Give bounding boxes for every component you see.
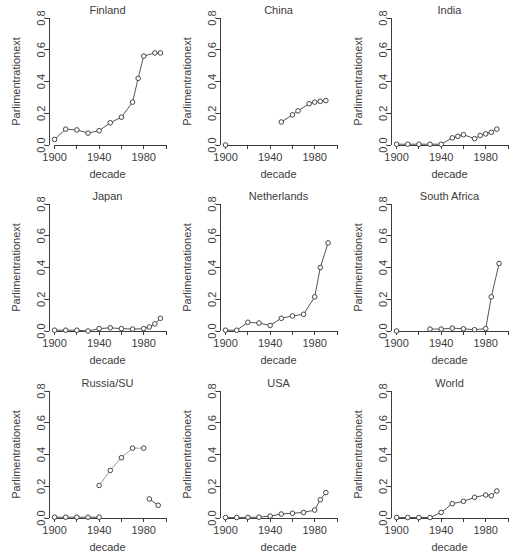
x-axis-tick-label: 1940 [429,524,453,536]
y-axis-tick-label: 0.2 [206,478,218,493]
data-point-marker [119,327,124,332]
y-axis-title: Parlimentrationext [181,224,193,313]
x-axis-tick-label: 1940 [258,151,282,163]
x-axis-title: decade [89,354,125,366]
x-axis-tick-label: 1980 [302,524,326,536]
y-axis-title: Parlimentrationext [352,224,364,313]
panel-title: World [435,377,464,389]
chart-panel-finland: Finland0.00.20.40.60.8Parlimentrationext… [0,0,171,186]
data-point-marker [461,132,466,137]
y-axis-title: Parlimentrationext [352,410,364,499]
y-axis-tick-label: 0.8 [35,197,47,212]
y-axis-tick-label: 0.4 [377,74,389,89]
data-point-marker [495,488,500,493]
y-axis-tick-label: 0.2 [206,292,218,307]
data-point-marker [136,76,141,81]
chart-panel-south-africa: South Africa0.00.20.40.60.8Parlimentrati… [342,186,513,372]
data-point-marker [279,120,284,125]
y-axis-tick-label: 0.8 [206,10,218,25]
data-point-marker [428,142,433,147]
panel-title: India [438,4,463,16]
data-point-marker [268,323,273,328]
y-axis-tick-label: 0.6 [35,42,47,57]
x-axis-tick-label: 1980 [131,151,155,163]
y-axis-tick-label: 0.6 [377,42,389,57]
data-point-marker [156,503,161,508]
y-axis-tick-label: 0.4 [35,74,47,89]
data-point-marker [257,321,262,326]
data-point-marker [147,496,152,501]
data-point-marker [268,513,273,518]
y-axis-tick-label: 0.2 [35,292,47,307]
data-point-marker [489,493,494,498]
data-point-marker [130,446,135,451]
data-point-marker [119,115,124,120]
chart-panel-usa: USA0.00.20.40.60.8Parlimentrationext1900… [171,373,342,559]
x-axis-tick-label: 1900 [42,524,66,536]
y-axis-tick-label: 0.8 [206,197,218,212]
data-point-marker [52,137,57,142]
data-point-marker [75,328,80,333]
y-axis-title: Parlimentrationext [352,37,364,126]
data-point-marker [456,134,461,139]
data-point-marker [130,327,135,332]
data-point-marker [223,143,228,148]
x-axis-tick-label: 1940 [87,151,111,163]
data-point-marker [86,515,91,520]
data-point-marker [141,446,146,451]
panel-title: USA [267,377,290,389]
data-point-marker [130,100,135,105]
x-axis-tick-label: 1980 [302,151,326,163]
data-point-marker [108,468,113,473]
data-point-marker [234,515,239,520]
chart-panel-world: World0.00.20.40.60.8Parlimentrationext19… [342,373,513,559]
x-axis-tick-label: 1940 [87,337,111,349]
data-point-marker [63,127,68,132]
x-axis-title: decade [431,168,467,180]
data-point-marker [63,515,68,520]
data-point-marker [119,455,124,460]
y-axis-tick-label: 0.4 [35,447,47,462]
y-axis-tick-label: 0.2 [377,106,389,121]
series-line [397,491,497,518]
data-point-marker [158,316,163,321]
x-axis-title: decade [431,541,467,553]
data-point-marker [394,515,399,520]
x-axis-title: decade [260,541,296,553]
series-line [99,448,144,485]
data-point-marker [439,510,444,515]
data-point-marker [326,241,331,246]
y-axis-title: Parlimentrationext [181,410,193,499]
data-point-marker [257,515,262,520]
data-point-marker [318,266,323,271]
data-point-marker [279,316,284,321]
y-axis-tick-label: 0.8 [206,383,218,398]
data-point-marker [417,515,422,520]
data-point-marker [472,495,477,500]
data-point-marker [417,142,422,147]
data-point-marker [478,133,483,138]
data-point-marker [108,120,113,125]
panel-grid: Finland0.00.20.40.60.8Parlimentrationext… [0,0,513,559]
data-point-marker [439,327,444,332]
data-point-marker [489,295,494,300]
data-point-marker [312,100,317,105]
data-point-marker [296,109,301,114]
data-point-marker [223,328,228,333]
data-point-marker [450,501,455,506]
data-point-marker [290,314,295,319]
data-point-marker [290,511,295,516]
x-axis-tick-label: 1900 [42,337,66,349]
x-axis-tick-label: 1900 [213,151,237,163]
data-point-marker [461,499,466,504]
data-point-marker [97,327,102,332]
panel-title: Finland [89,4,125,16]
x-axis-tick-label: 1940 [429,151,453,163]
chart-panel-india: India0.00.20.40.60.8Parlimentrationext19… [342,0,513,186]
data-point-marker [489,130,494,135]
data-point-marker [158,51,163,56]
chart-panel-netherlands: Netherlands0.00.20.40.60.8Parlimentratio… [171,186,342,372]
data-point-marker [52,515,57,520]
y-axis-tick-label: 0.4 [206,260,218,275]
data-point-marker [97,515,102,520]
